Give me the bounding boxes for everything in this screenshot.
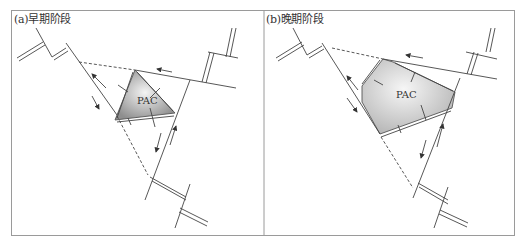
- pac-label-a: PAC: [137, 95, 158, 106]
- figure-frame: [12, 11, 515, 236]
- panel-a: [17, 28, 238, 228]
- panel-b: [276, 28, 497, 228]
- tectonic-diagram: (a)早期阶段 (b)晚期阶段: [0, 0, 523, 245]
- pac-label-b: PAC: [396, 89, 417, 100]
- diagram-canvas: PAC: [0, 0, 523, 245]
